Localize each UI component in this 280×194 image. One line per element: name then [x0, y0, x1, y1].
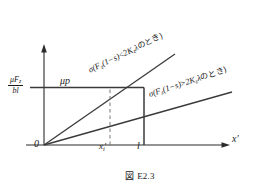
xi-tick-label: xi′	[99, 142, 107, 152]
caption-number: E2.3	[137, 171, 155, 181]
origin-label: 0	[34, 139, 39, 149]
figure-container: μFz bl μp 0 xi′ l x′ σ(Fz(1−s)<2Kzλのとき) …	[0, 0, 280, 194]
y-axis-label-numerator: μFz	[8, 75, 23, 86]
x-axis	[26, 142, 230, 148]
plateau-label: μp	[60, 76, 70, 86]
y-axis	[41, 44, 47, 145]
caption-prefix: 図	[125, 171, 134, 181]
figure-drawing-canvas	[0, 0, 280, 194]
sigma-line-shallow	[44, 92, 232, 145]
x-axis-label: x′	[232, 134, 239, 144]
figure-caption: 図 E2.3	[0, 169, 280, 182]
l-tick-label: l	[137, 141, 140, 151]
y-axis-label: μFz bl	[8, 75, 23, 95]
y-axis-label-denominator: bl	[8, 86, 23, 95]
